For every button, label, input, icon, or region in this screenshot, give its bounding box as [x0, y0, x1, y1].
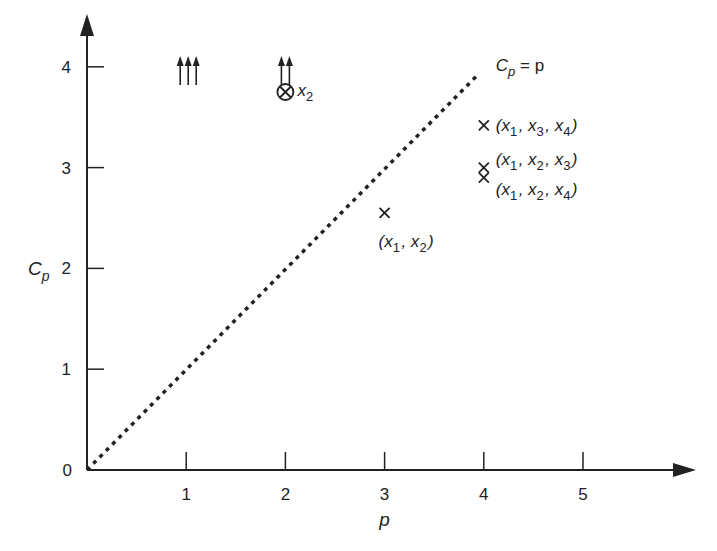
cp-plot: 1234501234 Cp = p x2 (x1 , x2 )(x1 , x3 … [0, 0, 717, 551]
y-axis-label: Cp [28, 258, 50, 284]
off-scale-arrow-group [278, 56, 293, 85]
x-tick-label: 5 [578, 485, 587, 504]
arrow-up-icon [286, 56, 293, 66]
data-point [479, 173, 489, 183]
y-tick-label: 1 [62, 360, 71, 379]
x-axis-label: p [378, 509, 390, 530]
y-label-sub: p [41, 268, 50, 284]
x-axis-arrowhead [673, 463, 696, 477]
data-point [479, 163, 489, 173]
data-point [479, 120, 489, 130]
y-tick-label: 4 [62, 58, 71, 77]
x-tick-label: 3 [380, 485, 389, 504]
data-point [277, 84, 293, 100]
x-tick-label: 2 [281, 485, 290, 504]
x-tick-label: 1 [181, 485, 190, 504]
arrow-up-icon [193, 56, 200, 66]
reference-line-group: Cp = p [87, 56, 544, 470]
y-label-main: C [28, 258, 42, 279]
point-label: (x1 , x2 , x4 ) [496, 180, 578, 203]
data-point [380, 208, 390, 218]
x-tick-label: 4 [479, 485, 488, 504]
y-tick-label: 0 [63, 461, 72, 480]
arrow-up-icon [278, 56, 285, 66]
point-label: x2 [296, 81, 314, 104]
reference-line-cp-equals-p [87, 75, 478, 470]
arrow-up-icon [177, 56, 184, 66]
off-scale-arrows-group [177, 56, 293, 85]
point-label: (x1 , x2 , x3 ) [496, 150, 578, 173]
arrow-up-icon [185, 56, 192, 66]
reference-line-label: Cp = p [496, 56, 544, 79]
y-axis-arrowhead [80, 14, 94, 36]
point-label: (x1 , x2 ) [379, 232, 434, 255]
point-label: (x1 , x3 , x4 ) [496, 116, 578, 139]
y-tick-label: 3 [62, 159, 71, 178]
y-tick-label: 2 [62, 259, 71, 278]
off-scale-arrow-group [177, 56, 200, 85]
points-group: x2 (x1 , x2 )(x1 , x3 , x4 )(x1 , x2 , x… [277, 81, 577, 255]
